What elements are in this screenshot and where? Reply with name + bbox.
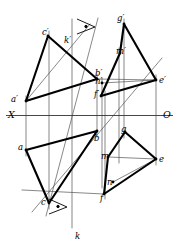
label-e-point: e xyxy=(159,155,164,164)
conn-m-e xyxy=(108,157,156,159)
vertex-b xyxy=(96,130,99,133)
label-a-point: a xyxy=(18,143,23,152)
label-f-point: f xyxy=(100,194,103,203)
upper-right-triangle xyxy=(101,24,156,96)
label-c-point: c xyxy=(41,198,46,207)
vertex-g-prime xyxy=(123,23,126,26)
label-n-prime: n′ xyxy=(95,77,102,86)
label-g-prime: g′ xyxy=(117,14,124,23)
descriptive-geometry-figure: c′k′g′m′b′n′e′f′a′XObgamencfk xyxy=(0,0,179,251)
figure-canvas xyxy=(0,0,179,251)
label-m-point: m xyxy=(101,152,109,161)
marker-lower-dot xyxy=(57,205,59,207)
marker-upper-dot xyxy=(85,25,87,27)
label-g-point: g xyxy=(121,125,126,134)
conn-bprime-eprime xyxy=(97,79,156,80)
vertex-dots-group xyxy=(25,23,158,205)
label-a-prime: a′ xyxy=(11,95,18,104)
vertex-a-prime xyxy=(25,100,28,103)
label-b-point: b xyxy=(94,134,99,143)
upper-left-triangle xyxy=(26,36,97,101)
figure-outlines-group xyxy=(26,24,156,203)
vertex-f-prime xyxy=(100,95,103,98)
label-x-axis: X xyxy=(8,110,15,120)
vertex-e xyxy=(155,158,158,161)
label-c-prime: c′ xyxy=(42,28,49,37)
line-a-c-ext xyxy=(26,24,90,101)
label-e-prime: e′ xyxy=(159,76,166,85)
label-f-prime: f′ xyxy=(94,90,99,99)
vertex-c xyxy=(48,202,51,205)
label-k-prime: k′ xyxy=(64,36,71,45)
vertex-a xyxy=(25,149,28,152)
label-n-point: n xyxy=(107,178,112,187)
vertex-e-prime xyxy=(155,79,158,82)
label-k-point: k xyxy=(75,232,80,241)
label-m-prime: m′ xyxy=(116,47,126,56)
label-o-axis: O xyxy=(163,110,171,120)
line-f-diag xyxy=(22,190,104,194)
